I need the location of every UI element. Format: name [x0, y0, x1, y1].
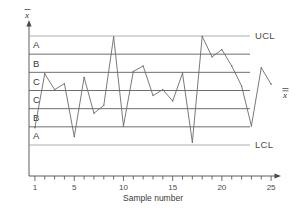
zone-label-2-upper-C: C: [33, 76, 40, 87]
data-point-10: [123, 125, 124, 126]
data-point-4: [64, 83, 65, 84]
ucl-label: UCL: [255, 30, 275, 41]
x-axis-title: Sample number: [123, 193, 183, 203]
data-point-24: [261, 67, 262, 68]
x-tick-label-15: 15: [168, 183, 177, 192]
data-point-16: [182, 73, 183, 74]
data-point-17: [192, 142, 193, 143]
lcl-label: LCL: [255, 139, 273, 150]
zone-label-1-upper-B: B: [33, 58, 39, 69]
data-point-11: [133, 71, 134, 72]
data-point-9: [113, 36, 114, 37]
data-point-12: [142, 65, 143, 66]
centerline-symbol: x: [282, 90, 287, 100]
data-point-6: [83, 77, 84, 78]
data-point-22: [241, 85, 242, 86]
control-chart-svg: 1510152025 ABCCBA UCL LCL x x Sample num…: [0, 0, 305, 211]
data-point-7: [93, 113, 94, 114]
zone-label-0-upper-A: A: [33, 39, 40, 50]
data-point-8: [103, 105, 104, 106]
data-point-20: [221, 49, 222, 50]
data-point-18: [202, 36, 203, 37]
x-tick-label-5: 5: [72, 183, 77, 192]
data-point-13: [152, 95, 153, 96]
data-point-21: [231, 65, 232, 66]
data-point-23: [251, 125, 252, 126]
data-point-5: [74, 136, 75, 137]
x-tick-label-20: 20: [217, 183, 226, 192]
x-tick-label-1: 1: [33, 183, 38, 192]
data-point-2: [44, 73, 45, 74]
zone-label-5-lower-A: A: [33, 130, 40, 141]
x-tick-label-25: 25: [267, 183, 276, 192]
data-point-19: [211, 56, 212, 57]
x-tick-label-10: 10: [119, 183, 128, 192]
data-point-25: [270, 83, 271, 84]
data-point-1: [34, 127, 35, 128]
data-point-15: [172, 100, 173, 101]
data-point-14: [162, 89, 163, 90]
y-axis-symbol: x: [24, 10, 29, 20]
data-point-3: [54, 89, 55, 90]
control-chart: 1510152025 ABCCBA UCL LCL x x Sample num…: [0, 0, 305, 211]
